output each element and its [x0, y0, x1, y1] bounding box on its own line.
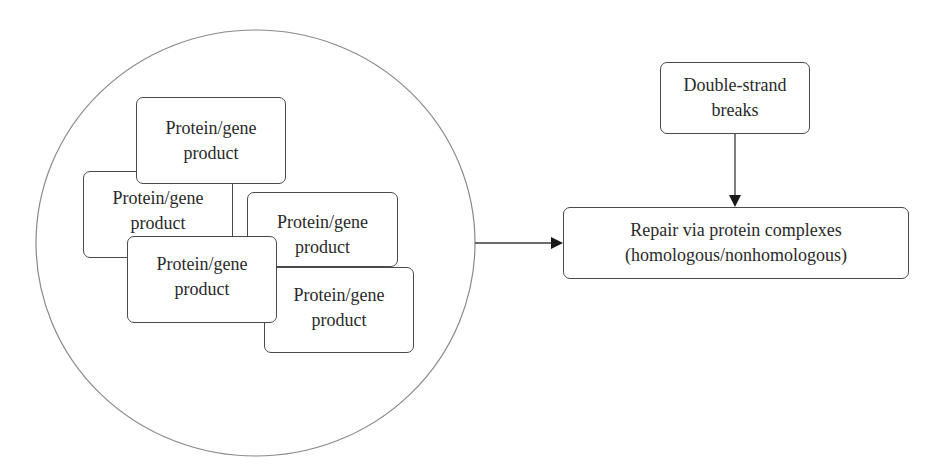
protein-box-a-line1: Protein/gene	[166, 116, 257, 141]
repair-line2: (homologous/nonhomologous)	[625, 243, 847, 268]
double-strand-breaks-line2: breaks	[712, 98, 759, 123]
repair-line1: Repair via protein complexes	[630, 218, 841, 243]
protein-box-d-line1: Protein/gene	[157, 252, 248, 277]
protein-box-b-line2: product	[131, 211, 186, 236]
protein-box-c-line1: Protein/gene	[277, 210, 368, 235]
protein-box-e-line1: Protein/gene	[294, 283, 385, 308]
protein-box-c-line2: product	[295, 235, 350, 260]
protein-box-e: Protein/gene product	[264, 267, 414, 353]
protein-box-a: Protein/gene product	[136, 97, 286, 184]
protein-box-a-line2: product	[184, 141, 239, 166]
protein-box-d: Protein/gene product	[127, 236, 277, 323]
protein-box-b-line1: Protein/gene	[113, 186, 204, 211]
repair-protein-complexes-box: Repair via protein complexes (homologous…	[563, 207, 909, 279]
protein-box-d-line2: product	[175, 277, 230, 302]
double-strand-breaks-line1: Double-strand	[684, 73, 787, 98]
arrowhead-right-icon	[551, 237, 563, 249]
arrowhead-down-icon	[729, 195, 741, 207]
protein-box-e-line2: product	[312, 308, 367, 333]
double-strand-breaks-box: Double-strand breaks	[660, 62, 810, 134]
